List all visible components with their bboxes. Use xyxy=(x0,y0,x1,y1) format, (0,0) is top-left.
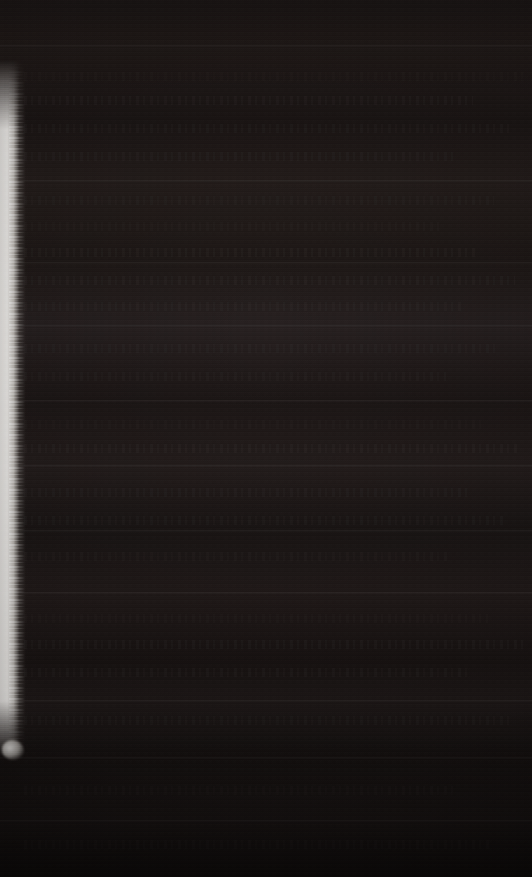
scanline-band-layer xyxy=(0,0,532,877)
scan-image-canvas xyxy=(0,0,532,877)
